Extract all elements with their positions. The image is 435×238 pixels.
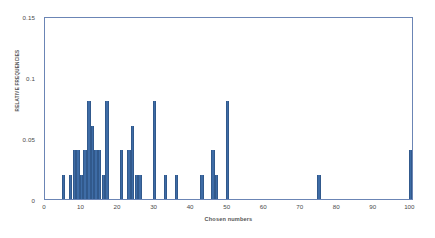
x-axis-tick-labels: 0102030405060708090100 <box>44 203 413 215</box>
bar <box>138 175 141 199</box>
x-tick-label: 20 <box>114 203 121 210</box>
bar <box>164 175 167 199</box>
y-tick-label: 0.1 <box>26 75 35 82</box>
bar <box>120 150 123 199</box>
x-tick-label: 10 <box>77 203 84 210</box>
x-axis-title: Chosen numbers <box>44 216 413 222</box>
x-tick-label: 40 <box>187 203 194 210</box>
bar <box>153 101 156 199</box>
x-tick-label: 0 <box>42 203 45 210</box>
bar <box>215 175 218 199</box>
bar <box>175 175 178 199</box>
y-tick-label: 0 <box>31 197 35 204</box>
x-tick-label: 60 <box>260 203 267 210</box>
bar <box>200 175 203 199</box>
plot-area <box>44 17 413 200</box>
x-tick-label: 70 <box>296 203 303 210</box>
y-tick-label: 0.05 <box>23 136 35 143</box>
x-tick-label: 30 <box>150 203 157 210</box>
x-tick-label: 50 <box>223 203 230 210</box>
x-tick-label: 100 <box>404 203 414 210</box>
y-tick-label: 0.15 <box>23 14 35 21</box>
bar <box>105 101 108 199</box>
bar <box>226 101 229 199</box>
bar <box>317 175 320 199</box>
y-axis-tick-labels: 00.050.10.15 <box>0 17 40 200</box>
x-tick-label: 80 <box>333 203 340 210</box>
bar <box>409 150 412 199</box>
x-tick-label: 90 <box>369 203 376 210</box>
bar <box>62 175 65 199</box>
histogram-chart: RELATIVE FREQUENCIES 00.050.10.15 010203… <box>0 0 435 238</box>
